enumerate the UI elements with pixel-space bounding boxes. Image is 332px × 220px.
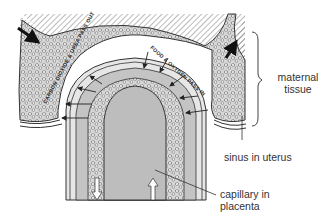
sinus-label: sinus in uterus [224, 151, 292, 163]
capillary-label-line2: placenta [220, 200, 270, 212]
capillary-label: capillary in placenta [220, 188, 270, 212]
capillary-label-line1: capillary in [220, 188, 270, 200]
maternal-tissue-label-line1: maternal [268, 71, 328, 83]
placenta-diagram: CARBON DIOXIDE & UREA PASS OUT FOOD & OX… [0, 0, 332, 220]
diagram-canvas: CARBON DIOXIDE & UREA PASS OUT FOOD & OX… [0, 0, 332, 220]
maternal-tissue-label: maternal tissue [268, 71, 328, 95]
maternal-bracket [252, 32, 262, 126]
maternal-tissue-label-line2: tissue [268, 83, 328, 95]
